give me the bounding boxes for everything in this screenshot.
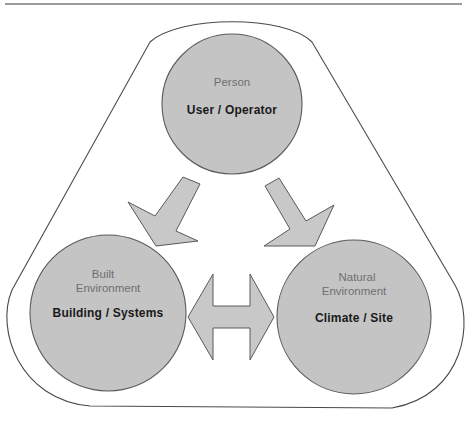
diagram-canvas [0, 0, 469, 428]
node-natural-category-line2: Environment [322, 284, 387, 298]
arrow-person-to-natural [264, 178, 334, 246]
node-natural-category: Natural [338, 270, 375, 284]
node-built-title: Building / Systems [53, 306, 164, 320]
node-built-category: Built [92, 267, 114, 281]
node-person-title: User / Operator [187, 103, 277, 117]
arrow-built-natural-bidirectional [188, 274, 274, 360]
node-built-category-line2: Environment [76, 281, 141, 295]
node-natural-title: Climate / Site [315, 311, 393, 325]
arrow-person-to-built [128, 177, 200, 246]
node-person-category: Person [214, 75, 250, 89]
